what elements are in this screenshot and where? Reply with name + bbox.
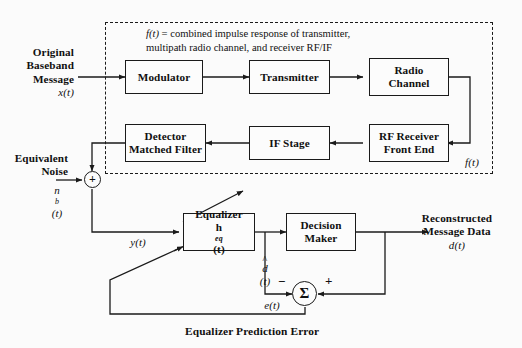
block-if-stage-label: IF Stage	[269, 137, 309, 150]
output-label-line1: Reconstructed	[398, 212, 516, 225]
equalizer-input-signal-label: y(t)	[118, 236, 158, 249]
equalizer-h-tail: (t)	[213, 243, 224, 256]
input-label: Original Baseband Message x(t)	[0, 46, 74, 100]
error-summing-node[interactable]: Σ	[292, 281, 317, 306]
dhat-caret: ^	[263, 254, 268, 266]
block-modulator-label: Modulator	[138, 71, 190, 84]
block-equalizer-label-line2: heq(t)	[213, 221, 224, 256]
noise-signal-base: n	[36, 184, 78, 197]
block-detector-label-line1: Detector	[145, 130, 187, 143]
noise-signal-subscript: b	[36, 197, 78, 207]
input-label-line3: Message	[0, 73, 74, 86]
ft-corner-label: f(t)	[457, 156, 487, 169]
block-transmitter-label: Transmitter	[260, 71, 319, 84]
input-label-line2: Baseband	[0, 59, 74, 72]
dhat-wrapper: ^d	[244, 262, 286, 275]
equalizer-h-symbol: h	[213, 221, 224, 234]
ft-caption-line2: multipath radio channel, and receiver RF…	[146, 41, 350, 55]
output-label-line2: Message Data	[398, 225, 516, 238]
block-decision-maker[interactable]: Decision Maker	[286, 213, 356, 251]
block-decision-maker-label-line1: Decision	[300, 219, 341, 232]
block-modulator[interactable]: Modulator	[125, 60, 203, 94]
block-radio-channel[interactable]: Radio Channel	[369, 58, 449, 96]
output-label: Reconstructed Message Data d(t)	[398, 212, 516, 252]
decision-input-signal-label: ^d(t)	[244, 262, 286, 288]
noise-signal-label: nb(t)	[36, 184, 78, 220]
block-equalizer-label-line1: Equalizer	[195, 208, 243, 221]
noise-summing-node-plus: +	[89, 172, 96, 187]
noise-summing-node[interactable]: +	[84, 171, 101, 188]
sigma-plus-sign: +	[325, 274, 332, 287]
dhat-tail: (t)	[244, 275, 286, 288]
block-rf-receiver-front-end[interactable]: RF Receiver Front End	[369, 124, 449, 162]
bottom-note-label: Equalizer Prediction Error	[185, 325, 319, 337]
block-detector-matched-filter[interactable]: Detector Matched Filter	[125, 124, 206, 162]
equalizer-h-subscript: eq	[213, 234, 224, 243]
block-transmitter[interactable]: Transmitter	[249, 60, 330, 94]
noise-signal-tail: (t)	[36, 207, 78, 220]
block-diagram-figure: f(t) = combined impulse response of tran…	[0, 0, 522, 348]
block-equalizer[interactable]: Equalizer heq(t)	[183, 213, 255, 251]
error-summing-node-sigma: Σ	[300, 285, 310, 302]
noise-label: Equivalent Noise	[0, 152, 68, 179]
ft-caption-line1: = combined impulse response of transmitt…	[159, 28, 350, 39]
line-sum-to-equalizer	[92, 189, 179, 232]
block-decision-maker-label-line2: Maker	[305, 232, 338, 245]
error-signal-label: e(t)	[252, 299, 292, 312]
noise-label-line2: Noise	[0, 165, 68, 178]
ft-caption: f(t) = combined impulse response of tran…	[146, 27, 350, 54]
block-rf-receiver-label-line2: Front End	[384, 143, 435, 156]
output-signal-label: d(t)	[398, 239, 516, 252]
input-signal-label: x(t)	[0, 86, 74, 99]
block-radio-channel-label-line2: Channel	[388, 77, 429, 90]
line-error-feedback-arrowhead	[174, 247, 183, 251]
input-label-line1: Original	[0, 46, 74, 59]
block-detector-label-line2: Matched Filter	[129, 143, 202, 156]
block-radio-channel-label-line1: Radio	[394, 64, 423, 77]
noise-label-line1: Equivalent	[0, 152, 68, 165]
ft-caption-symbol: f(t)	[146, 28, 159, 39]
block-rf-receiver-label-line1: RF Receiver	[379, 130, 439, 143]
block-if-stage[interactable]: IF Stage	[249, 126, 330, 160]
